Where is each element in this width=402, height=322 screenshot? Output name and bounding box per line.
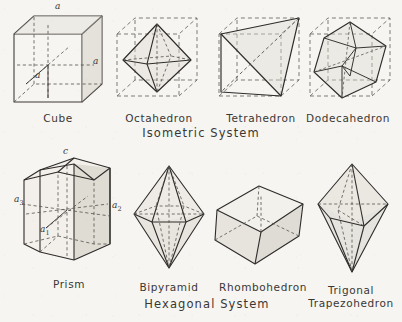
figure-prism: c a3 a2 a1	[18, 152, 130, 280]
figure-dodecahedron	[306, 12, 398, 106]
cube-axis-label-right: a	[93, 56, 98, 66]
figure-rhombohedron	[213, 182, 309, 274]
figure-tetrahedron	[215, 12, 307, 106]
figure-octahedron	[113, 12, 205, 106]
caption-dodecahedron: Dodecahedron	[294, 112, 402, 124]
prism-axis-label-c: c	[63, 146, 68, 156]
system-label-isometric: Isometric System	[101, 126, 301, 140]
caption-trigonal-trapezohedron: Trigonal Trapezohedron	[300, 284, 402, 309]
figure-bipyramid	[126, 162, 212, 274]
prism-axis-label-a3: a3	[14, 194, 24, 207]
caption-trigonal-line1: Trigonal	[300, 284, 402, 297]
prism-axis-label-a2: a2	[112, 200, 122, 213]
figure-cube: a a a	[8, 8, 108, 108]
figure-trigonal-trapezohedron	[308, 160, 396, 278]
cube-axis-label-inner: a	[35, 70, 40, 80]
system-label-hexagonal: Hexagonal System	[112, 297, 302, 311]
caption-cube: Cube	[8, 112, 108, 124]
caption-octahedron: Octahedron	[101, 112, 217, 124]
prism-axis-label-a1: a1	[40, 224, 50, 237]
caption-trigonal-line2: Trapezohedron	[300, 297, 402, 310]
cube-axis-label-top: a	[55, 1, 60, 11]
crystal-systems-plate: a a a Cube	[0, 0, 402, 322]
caption-prism: Prism	[14, 278, 124, 290]
